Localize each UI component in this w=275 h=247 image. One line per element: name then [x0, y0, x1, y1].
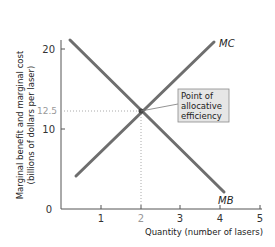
x-axis-title: Quantity (number of lasers)	[145, 227, 263, 237]
y-tick-label-20: 20	[42, 44, 55, 55]
x-tick-label-4: 4	[217, 213, 223, 224]
mc-label: MC	[219, 38, 235, 49]
x-tick-label-2: 2	[138, 213, 144, 224]
annotation-line-1: Point of	[181, 91, 214, 101]
x-tick-label-5: 5	[257, 213, 263, 224]
annotation-line-2: allocative	[181, 101, 222, 111]
mb-label: MB	[218, 195, 234, 206]
annotation-line-3: efficiency	[181, 111, 222, 121]
allocative-efficiency-chart: 20 10 0 12.5 1 2 3 4 5 MC MB Point of al…	[0, 0, 275, 247]
y-axis-title-line-2: (billions of dollars per laser)	[26, 66, 36, 185]
y-ref-label-12-5: 12.5	[37, 106, 57, 116]
y-tick-label-10: 10	[42, 124, 55, 135]
y-tick-label-0: 0	[46, 204, 52, 215]
y-axis-title-line-1: Marginal benefit and marginal cost	[15, 50, 25, 199]
x-tick-label-3: 3	[177, 213, 183, 224]
x-tick-label-1: 1	[98, 213, 104, 224]
